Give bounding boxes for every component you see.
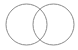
venn-circle-right xyxy=(33,4,74,45)
venn-diagram xyxy=(0,0,78,50)
venn-circle-left xyxy=(6,4,47,45)
